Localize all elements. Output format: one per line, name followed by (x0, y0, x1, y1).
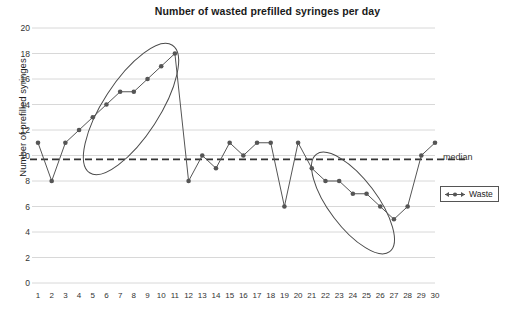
data-point (227, 140, 232, 145)
data-point (104, 102, 109, 107)
data-point (173, 51, 178, 56)
data-point (433, 140, 438, 145)
data-point (241, 153, 246, 158)
data-point (36, 140, 41, 145)
data-point (200, 153, 205, 158)
data-point (49, 179, 54, 184)
data-point (255, 140, 260, 145)
data-point (296, 140, 301, 145)
chart-container: Number of wasted prefilled syringes per … (0, 0, 509, 312)
gridlines (32, 28, 435, 283)
data-point (268, 140, 273, 145)
data-point (405, 204, 410, 209)
data-point (337, 179, 342, 184)
chart-legend: Waste (440, 186, 499, 202)
data-point (419, 153, 424, 158)
data-point (186, 179, 191, 184)
median-line-label: median (443, 152, 473, 162)
data-point (378, 204, 383, 209)
series-line-waste (38, 54, 435, 220)
data-point (351, 191, 356, 196)
data-point (118, 89, 123, 94)
legend-line-marker-icon (444, 190, 466, 199)
data-point (282, 204, 287, 209)
data-point (392, 217, 397, 222)
data-point (309, 166, 314, 171)
data-point (364, 191, 369, 196)
plot-area (0, 0, 509, 312)
data-point (77, 128, 82, 133)
data-point (90, 115, 95, 120)
data-point (132, 89, 137, 94)
data-point (145, 77, 150, 82)
data-point (159, 64, 164, 69)
data-point (214, 166, 219, 171)
trend-annotations (66, 30, 409, 266)
legend-item-label: Waste (469, 189, 493, 199)
data-point (323, 179, 328, 184)
data-point (63, 140, 68, 145)
